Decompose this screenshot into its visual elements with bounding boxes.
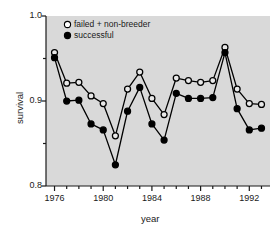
filled-circle-icon — [62, 30, 73, 41]
x-tick-label: 1984 — [138, 193, 166, 203]
y-tick-label: 0.8 — [22, 180, 42, 190]
legend-label-successful: successful — [74, 30, 114, 41]
y-axis-label: survival — [14, 92, 25, 124]
y-tick-label: 0.9 — [22, 95, 42, 105]
legend-item-successful: successful — [62, 30, 150, 41]
x-tick-label: 1988 — [187, 193, 215, 203]
legend-label-failed-non-breeder: failed + non-breeder — [74, 19, 150, 30]
x-tick-label: 1980 — [89, 193, 117, 203]
x-tick-label: 1976 — [41, 193, 69, 203]
open-circle-icon — [62, 19, 73, 30]
chart-legend: failed + non-breeder successful — [62, 19, 150, 41]
y-tick-label: 1.0 — [22, 10, 42, 20]
chart-figure: 1.00.90.819761980198419881992 survival y… — [0, 0, 280, 234]
legend-item-failed-non-breeder: failed + non-breeder — [62, 19, 150, 30]
x-axis-label: year — [141, 213, 159, 224]
x-tick-label: 1992 — [235, 193, 263, 203]
